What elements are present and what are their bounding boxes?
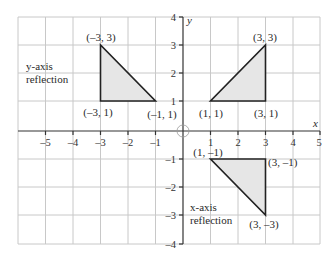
y-axis-label: y: [186, 14, 192, 26]
vertex-label: (3, –1): [268, 156, 298, 169]
vertex-label: (3, 1): [254, 107, 278, 120]
y-tick-label: 3: [171, 40, 176, 51]
y-tick-label: 1: [171, 96, 176, 107]
y-reflection-caption: y-axis: [26, 60, 53, 72]
x-tick-label: –3: [94, 137, 106, 148]
x-tick-label: –2: [122, 137, 134, 148]
x-axis-label: x: [312, 117, 318, 129]
y-tick-label: 2: [171, 68, 176, 79]
y-tick-label: –3: [165, 210, 177, 221]
vertex-label: (–3, 1): [83, 106, 113, 119]
y-reflection-caption: reflection: [26, 73, 69, 85]
y-tick-label: –1: [165, 154, 177, 165]
vertex-label: (–1, 1): [147, 108, 177, 121]
vertex-label: (1, –1): [193, 146, 223, 159]
x-tick-label: 2: [235, 137, 240, 148]
x-tick-label: 3: [263, 137, 268, 148]
y-tick-label: 4: [171, 12, 177, 23]
x-reflection-caption: reflection: [190, 214, 233, 226]
x-tick-label: 4: [290, 137, 296, 148]
y-tick-label: –2: [165, 182, 177, 193]
vertex-label: (3, 3): [253, 31, 277, 44]
x-tick-label: 5: [316, 137, 321, 148]
vertex-label: (1, 1): [199, 107, 223, 120]
coordinate-plane: –5 –4 –3 –2 –1 1 2 3 4 5 4 3 2 1 –1 –2 –…: [0, 0, 333, 260]
y-tick-label: –4: [165, 239, 177, 250]
vertex-label: (–3, 3): [86, 31, 116, 44]
x-reflection-caption: x-axis: [190, 201, 217, 213]
x-tick-label: –5: [39, 137, 51, 148]
x-tick-label: –1: [149, 137, 161, 148]
vertex-label: (3, –3): [249, 218, 279, 231]
x-tick-label: –4: [67, 137, 79, 148]
